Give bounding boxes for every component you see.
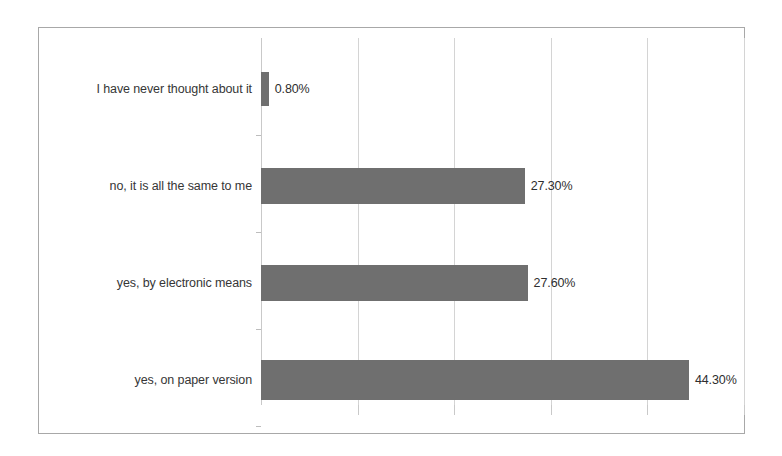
bar-value-label: 44.30% (695, 373, 737, 387)
category-tick (256, 329, 261, 330)
gridline-20 (454, 38, 455, 405)
category-label: yes, on paper version (135, 373, 252, 387)
category-label: yes, by electronic means (117, 276, 252, 290)
bar-value-label: 27.30% (531, 179, 573, 193)
category-tick (256, 426, 261, 427)
bar (261, 265, 528, 301)
gridline-40 (647, 38, 648, 405)
grid-tick-20 (454, 405, 455, 415)
category-label: I have never thought about it (96, 82, 252, 96)
chart-frame: I have never thought about it 0.80% no, … (38, 27, 745, 434)
bar (261, 72, 269, 106)
bar-value-label: 0.80% (275, 82, 310, 96)
grid-tick-30 (551, 405, 552, 415)
gridline-30 (551, 38, 552, 405)
gridline-10 (358, 38, 359, 405)
plot-area: I have never thought about it 0.80% no, … (261, 38, 744, 405)
gridline-50 (744, 38, 745, 405)
bar (261, 360, 689, 400)
bar-value-label: 27.60% (534, 276, 576, 290)
grid-tick-50 (744, 405, 745, 415)
category-tick (256, 135, 261, 136)
bar (261, 168, 525, 204)
grid-tick-10 (358, 405, 359, 415)
category-tick (256, 232, 261, 233)
grid-tick-40 (647, 405, 648, 415)
category-label: no, it is all the same to me (110, 179, 252, 193)
